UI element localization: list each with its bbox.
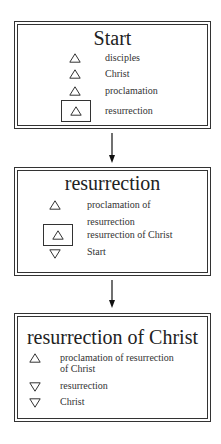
triangle-down-icon[interactable]: [49, 249, 61, 259]
item-label[interactable]: proclamation: [105, 83, 158, 98]
node-resurrection: resurrection proclamation of resurrectio…: [14, 167, 211, 276]
item-label[interactable]: proclamation of: [87, 197, 151, 212]
item-label[interactable]: Christ: [60, 394, 84, 409]
triangle-up-icon[interactable]: [69, 53, 81, 63]
triangle-down-icon[interactable]: [29, 382, 41, 392]
node-start: Start disciples Christ proclamation resu…: [14, 21, 211, 129]
node-title: Start: [15, 27, 210, 49]
item-label[interactable]: Christ: [105, 66, 129, 81]
triangle-up-icon[interactable]: [49, 200, 61, 210]
item-label[interactable]: resurrection of Christ: [87, 227, 173, 242]
triangle-up-icon: [70, 106, 82, 116]
triangle-down-icon[interactable]: [29, 398, 41, 408]
selected-item-box[interactable]: [43, 224, 73, 246]
item-label[interactable]: Start: [87, 244, 106, 259]
item-label[interactable]: resurrection: [105, 103, 153, 118]
node-resurrection-of-christ: resurrection of Christ proclamation of r…: [14, 313, 211, 422]
node-title: resurrection of Christ: [15, 326, 210, 348]
selected-item-box[interactable]: [61, 100, 91, 122]
item-label[interactable]: of Christ: [60, 361, 95, 376]
item-label[interactable]: disciples: [105, 50, 140, 65]
triangle-up-icon: [52, 230, 64, 240]
node-title: resurrection: [15, 172, 210, 194]
arrow-down-icon: [108, 280, 116, 309]
item-label[interactable]: resurrection: [60, 378, 108, 393]
triangle-up-icon[interactable]: [69, 86, 81, 96]
triangle-up-icon[interactable]: [69, 69, 81, 79]
arrow-down-icon: [108, 133, 116, 164]
triangle-up-icon[interactable]: [29, 353, 41, 363]
